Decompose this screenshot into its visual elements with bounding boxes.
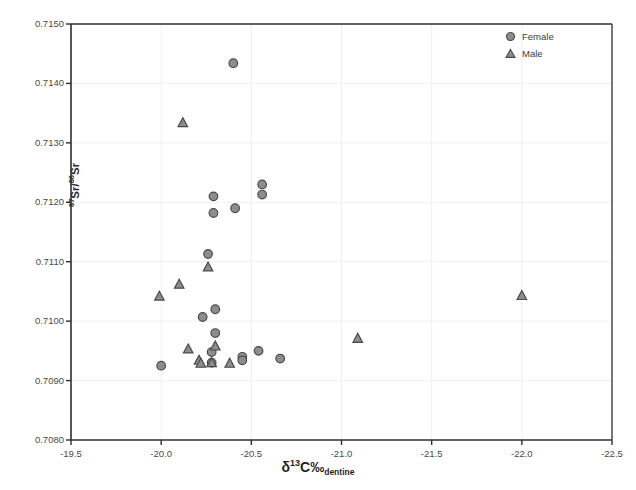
data-point-male[interactable] xyxy=(211,341,221,350)
data-point-female[interactable] xyxy=(211,305,220,314)
y-axis-tick-label: 0.7140 xyxy=(18,77,64,88)
x-axis-tick-label: -21.5 xyxy=(407,448,457,459)
data-point-female[interactable] xyxy=(231,204,240,213)
y-axis-tick-label: 0.7120 xyxy=(18,196,64,207)
legend-item-female[interactable]: Female xyxy=(505,28,600,45)
x-axis-title: δ13C‰dentine xyxy=(0,458,636,477)
y-axis-tick-label: 0.7150 xyxy=(18,18,64,29)
data-point-female[interactable] xyxy=(258,190,267,199)
data-point-male[interactable] xyxy=(178,118,188,127)
data-point-male[interactable] xyxy=(155,291,165,300)
data-point-female[interactable] xyxy=(198,313,207,322)
x-axis-tick-label: -21.0 xyxy=(317,448,367,459)
y-axis-tick-label: 0.7130 xyxy=(18,137,64,148)
triangle-marker-icon xyxy=(505,48,516,59)
y-axis-sr-slash: Sr/ xyxy=(69,183,81,198)
data-point-female[interactable] xyxy=(157,361,166,370)
data-point-male[interactable] xyxy=(225,358,235,367)
data-point-female[interactable] xyxy=(209,192,218,201)
y-axis-sup-87: 87 xyxy=(67,199,76,207)
y-axis-tick-label: 0.7080 xyxy=(18,434,64,445)
data-point-male[interactable] xyxy=(174,279,184,288)
data-point-male[interactable] xyxy=(183,344,193,353)
legend-label-female: Female xyxy=(522,31,554,42)
y-axis-sup-86: 86 xyxy=(67,175,76,183)
data-point-female[interactable] xyxy=(209,209,218,218)
x-axis-delta: δ xyxy=(282,459,291,475)
x-axis-tick-label: -20.5 xyxy=(226,448,276,459)
data-point-female[interactable] xyxy=(211,329,220,338)
data-point-female[interactable] xyxy=(254,347,263,356)
series-female xyxy=(157,59,285,370)
x-axis-tick-label: -22.5 xyxy=(587,448,636,459)
series-male xyxy=(155,118,527,368)
data-point-female[interactable] xyxy=(238,356,247,365)
plot-canvas xyxy=(0,0,636,490)
x-axis-tick-label: -19.5 xyxy=(46,448,96,459)
x-axis-c-permille: C‰ xyxy=(300,459,324,475)
scatter-plot-figure: 87Sr/86Sr δ13C‰dentine Female Male 0.708… xyxy=(0,0,636,490)
x-axis-tick-label: -20.0 xyxy=(136,448,186,459)
data-point-male[interactable] xyxy=(517,291,527,300)
y-axis-sr-tail: Sr xyxy=(69,163,81,175)
y-axis-tick-label: 0.7110 xyxy=(18,256,64,267)
circle-marker-icon xyxy=(505,31,516,42)
legend-item-male[interactable]: Male xyxy=(505,45,600,62)
data-point-female[interactable] xyxy=(204,250,213,259)
y-axis-title: 87Sr/86Sr xyxy=(67,125,81,245)
data-point-male[interactable] xyxy=(353,333,363,342)
data-point-female[interactable] xyxy=(229,59,238,68)
data-point-female[interactable] xyxy=(258,180,267,189)
x-axis-sup-13: 13 xyxy=(290,458,300,468)
data-point-female[interactable] xyxy=(276,354,285,363)
legend-label-male: Male xyxy=(522,48,543,59)
y-axis-tick-label: 0.7090 xyxy=(18,375,64,386)
data-point-male[interactable] xyxy=(203,262,213,271)
y-axis-tick-label: 0.7100 xyxy=(18,315,64,326)
legend: Female Male xyxy=(505,28,600,62)
x-axis-sub-dentine: dentine xyxy=(324,467,354,477)
x-axis-tick-label: -22.0 xyxy=(497,448,547,459)
